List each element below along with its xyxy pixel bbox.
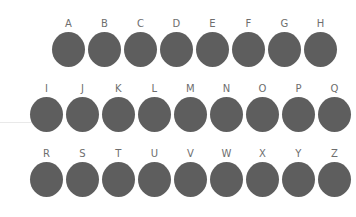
- circle-marker-c[interactable]: [124, 32, 157, 67]
- letter-label-v: V: [174, 149, 207, 159]
- letter-label-g: G: [268, 19, 301, 29]
- circle-marker-l[interactable]: [138, 97, 171, 132]
- letter-label-z: Z: [318, 149, 351, 159]
- letter-label-a: A: [52, 19, 85, 29]
- circle-marker-b[interactable]: [88, 32, 121, 67]
- letter-label-l: L: [138, 84, 171, 94]
- circle-marker-a[interactable]: [52, 32, 85, 67]
- letter-label-b: B: [88, 19, 121, 29]
- circle-marker-i[interactable]: [30, 97, 63, 132]
- circle-marker-p[interactable]: [282, 97, 315, 132]
- letter-label-d: D: [160, 19, 193, 29]
- circle-marker-f[interactable]: [232, 32, 265, 67]
- letter-label-m: M: [174, 84, 207, 94]
- letter-label-i: I: [30, 84, 63, 94]
- circle-marker-g[interactable]: [268, 32, 301, 67]
- letter-label-h: H: [304, 19, 337, 29]
- letter-label-u: U: [138, 149, 171, 159]
- letter-label-t: T: [102, 149, 135, 159]
- letter-label-f: F: [232, 19, 265, 29]
- letter-label-o: O: [246, 84, 279, 94]
- letter-label-y: Y: [282, 149, 315, 159]
- circle-marker-v[interactable]: [174, 162, 207, 197]
- letter-label-p: P: [282, 84, 315, 94]
- letter-label-r: R: [30, 149, 63, 159]
- circle-marker-m[interactable]: [174, 97, 207, 132]
- letter-label-s: S: [66, 149, 99, 159]
- letter-label-w: W: [210, 149, 243, 159]
- letter-label-k: K: [102, 84, 135, 94]
- circle-marker-s[interactable]: [66, 162, 99, 197]
- circle-marker-n[interactable]: [210, 97, 243, 132]
- letter-label-n: N: [210, 84, 243, 94]
- circle-marker-w[interactable]: [210, 162, 243, 197]
- circle-marker-k[interactable]: [102, 97, 135, 132]
- circle-marker-y[interactable]: [282, 162, 315, 197]
- circle-marker-z[interactable]: [318, 162, 351, 197]
- circle-marker-t[interactable]: [102, 162, 135, 197]
- circle-marker-u[interactable]: [138, 162, 171, 197]
- circle-marker-o[interactable]: [246, 97, 279, 132]
- circle-marker-d[interactable]: [160, 32, 193, 67]
- letter-label-e: E: [196, 19, 229, 29]
- circle-marker-h[interactable]: [304, 32, 337, 67]
- circle-marker-x[interactable]: [246, 162, 279, 197]
- letter-label-q: Q: [318, 84, 351, 94]
- letter-label-j: J: [66, 84, 99, 94]
- letter-label-c: C: [124, 19, 157, 29]
- circle-marker-e[interactable]: [196, 32, 229, 67]
- circle-marker-r[interactable]: [30, 162, 63, 197]
- letter-label-x: X: [246, 149, 279, 159]
- circle-marker-q[interactable]: [318, 97, 351, 132]
- circle-marker-j[interactable]: [66, 97, 99, 132]
- alphabet-circle-grid: ABCDEFGHIJKLMNOPQRSTUVWXYZ: [0, 0, 356, 217]
